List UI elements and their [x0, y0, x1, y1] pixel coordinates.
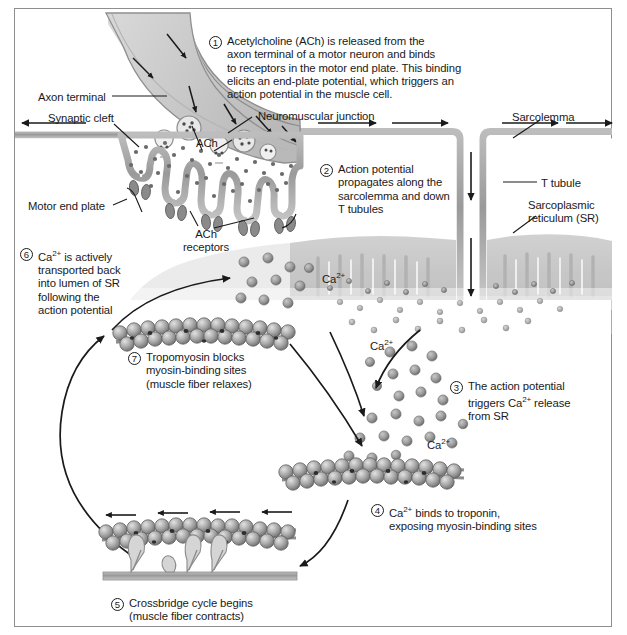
step-6-text: Ca2+ is actively transported back into l…	[38, 247, 146, 317]
step-4-superscript: 2+	[403, 505, 412, 514]
step-2-text: Action potential propagates along the sa…	[338, 163, 458, 216]
label-synaptic-cleft: Synaptic cleft	[48, 112, 114, 125]
step-2-number: 2	[320, 164, 333, 177]
step-5-text: Crossbridge cycle begins (muscle fiber c…	[129, 597, 319, 624]
label-ach: ACh	[196, 137, 218, 150]
step-5-number: 5	[111, 598, 124, 611]
label-motor-end-plate: Motor end plate	[28, 200, 105, 213]
calcium-label-mid-right-base: Ca	[427, 439, 441, 451]
step-4-text: Ca2+ binds to troponin, exposing myosin-…	[389, 503, 589, 533]
step-1-text: Acetylcholine (ACh) is released from the…	[227, 35, 489, 101]
figure-root: 1 Acetylcholine (ACh) is released from t…	[0, 0, 627, 635]
step-4-number: 4	[371, 504, 384, 517]
step-3-text: The action potential triggers Ca2+ relea…	[468, 380, 596, 424]
calcium-label-upper-base: Ca	[322, 273, 336, 285]
step-4-text-pre: Ca	[389, 507, 403, 519]
calcium-label-upper-sup: 2+	[336, 271, 345, 280]
label-axon-terminal: Axon terminal	[38, 91, 106, 104]
step-7-number: 7	[128, 352, 141, 365]
step-4-text-post: binds to troponin, exposing myosin-bindi…	[389, 507, 537, 532]
label-sarcoplasmic-reticulum: Sarcoplasmic reticulum (SR)	[528, 199, 620, 226]
label-ach-receptors: ACh receptors	[171, 228, 241, 255]
calcium-label-mid-right: Ca2+	[427, 435, 450, 452]
calcium-label-upper: Ca2+	[322, 269, 345, 286]
step-3-superscript: 2+	[522, 395, 531, 404]
calcium-label-mid-left-sup: 2+	[384, 338, 393, 347]
calcium-label-mid-left: Ca2+	[370, 336, 393, 353]
calcium-label-mid-right-sup: 2+	[441, 437, 450, 446]
label-neuromuscular-junction: Neuromuscular junction	[258, 110, 374, 123]
step-6-number: 6	[20, 248, 33, 261]
step-6-text-pre: Ca	[38, 251, 52, 263]
step-1-number: 1	[209, 36, 222, 49]
label-sarcolemma: Sarcolemma	[512, 111, 574, 124]
step-6-superscript: 2+	[52, 249, 61, 258]
label-t-tubule: T tubule	[541, 177, 581, 190]
step-3-number: 3	[450, 381, 463, 394]
calcium-label-mid-left-base: Ca	[370, 340, 384, 352]
step-7-text: Tropomyosin blocks myosin-binding sites …	[146, 351, 306, 391]
